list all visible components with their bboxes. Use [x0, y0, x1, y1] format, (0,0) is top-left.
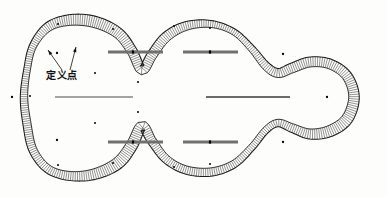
hatch-line: [35, 34, 41, 39]
hatch-line: [144, 60, 153, 64]
hatch-line: [261, 62, 267, 68]
hatch-line: [323, 58, 325, 68]
hatch-line: [334, 63, 339, 71]
hatch-line: [24, 127, 32, 128]
hatch-line: [257, 57, 263, 62]
hatch-line: [348, 100, 359, 102]
hatch-line: [106, 22, 111, 32]
hatch-line: [48, 22, 53, 30]
hatch-line: [240, 155, 245, 160]
hatch-line: [86, 15, 88, 26]
hatch-line: [276, 120, 278, 127]
hatch-line: [120, 36, 128, 42]
hatch-line: [43, 164, 48, 170]
node-outer-8: [173, 166, 175, 168]
hatch-line: [25, 136, 33, 137]
hatch-line: [346, 110, 356, 114]
hatch-line: [126, 46, 134, 51]
hatch-line: [88, 15, 90, 26]
hatch-line: [23, 74, 30, 75]
hatch-line: [172, 27, 177, 35]
hatch-line: [344, 113, 354, 118]
hatch-line: [41, 163, 47, 169]
hatch-line: [34, 155, 41, 159]
hatch-line: [35, 157, 42, 162]
hatch-line: [216, 22, 218, 28]
hatch-line: [28, 49, 35, 51]
free-point-upper-right: [282, 53, 284, 55]
hatch-line: [70, 172, 71, 181]
hatch-line: [104, 21, 109, 31]
hatch-line: [21, 105, 29, 106]
hatch-line: [155, 148, 162, 153]
hatch-line: [157, 150, 164, 155]
hatch-line: [107, 163, 112, 173]
hatch-line: [165, 31, 171, 39]
hatch-line: [84, 171, 85, 181]
hatch-line: [66, 15, 67, 25]
hatch-line: [71, 15, 72, 26]
hatch-line: [23, 123, 31, 124]
hatch-line: [212, 21, 213, 28]
definition-point-label: 定义点: [46, 69, 78, 81]
hatch-line: [346, 79, 355, 83]
node-outer-11: [29, 95, 31, 97]
hatch-line: [23, 72, 30, 73]
hatch-line: [187, 167, 189, 175]
hatch-line: [157, 40, 165, 46]
hatch-line: [332, 62, 337, 71]
hatch-line: [220, 23, 222, 29]
hatch-line: [103, 165, 108, 175]
hatch-line: [187, 21, 189, 29]
hatch-line: [305, 58, 307, 68]
hatch-line: [27, 142, 35, 144]
hatch-line: [216, 167, 218, 175]
free-point-right-tip: [326, 96, 328, 98]
mark-lower-left: [132, 140, 134, 143]
hatch-line: [63, 171, 65, 180]
hatch-line: [88, 170, 90, 180]
outer-contour-outline: [20, 14, 359, 181]
hatch-line: [162, 34, 169, 41]
hatch-line: [208, 20, 209, 27]
hatch-line: [230, 28, 233, 33]
leader-left-arrowhead-icon: [48, 50, 52, 55]
hatch-line: [21, 85, 28, 86]
hatch-line: [223, 24, 225, 30]
hatch-line: [151, 143, 158, 148]
hatch-line: [345, 112, 355, 117]
hatch-line: [145, 57, 154, 61]
node-outer-2: [112, 28, 114, 30]
hatch-line: [59, 17, 61, 27]
hatch-line: [29, 47, 36, 50]
hatch-line: [141, 65, 142, 75]
hatch-line: [183, 22, 186, 30]
node-outer-6: [57, 164, 59, 166]
hatch-line: [336, 64, 341, 72]
mark-upper-left: [132, 50, 134, 53]
hatch-line: [280, 120, 282, 127]
hatch-line: [167, 30, 172, 38]
hatch-line: [36, 158, 42, 163]
hatch-line: [25, 61, 32, 62]
hatch-line: [158, 38, 165, 44]
hatch-line: [68, 15, 69, 26]
node-outer-1: [57, 23, 59, 25]
hatch-line: [260, 60, 266, 65]
hatch-line: [345, 77, 354, 82]
hatch-line: [119, 34, 127, 41]
hatch-line: [210, 20, 211, 27]
hatch-line: [192, 167, 193, 175]
hatch-line: [333, 123, 338, 133]
hatch-line: [27, 51, 34, 53]
annotation-leader-lines: [48, 47, 76, 70]
hatch-line: [82, 171, 83, 181]
hatch-line: [323, 128, 325, 139]
hatch-line: [90, 170, 92, 180]
hatch-line: [131, 134, 141, 138]
hatch-line: [21, 90, 28, 91]
hatch-line: [174, 26, 178, 34]
hatch-line: [80, 14, 81, 25]
hatch-line: [92, 169, 94, 179]
hatch-line: [162, 155, 168, 161]
